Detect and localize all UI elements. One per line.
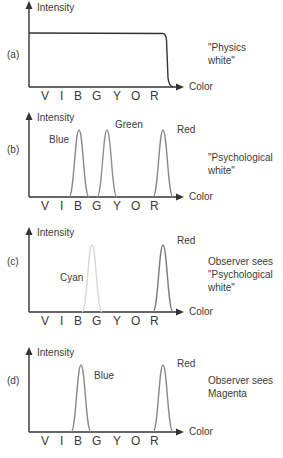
tick-r: R <box>150 314 159 328</box>
tick-g: G <box>92 199 101 213</box>
tick-r: R <box>150 89 159 103</box>
x-tick-labels: V I B G Y O R <box>41 434 159 448</box>
tick-g: G <box>92 434 101 448</box>
y-axis-label: Intensity <box>37 347 74 358</box>
blue-peak <box>71 365 91 432</box>
red-peak <box>153 245 173 312</box>
panel-b: Intensity Color (b) Blue Green Red "Psyc… <box>7 112 273 213</box>
x-axis-arrow-icon <box>176 309 184 316</box>
panel-caption-line-2: white" <box>207 165 235 176</box>
x-axis-arrow-icon <box>176 429 184 436</box>
tick-i: I <box>60 89 63 103</box>
panel-tag: (c) <box>7 256 19 267</box>
tick-y: Y <box>113 199 121 213</box>
panel-tag: (d) <box>7 375 19 386</box>
x-tick-labels: V I B G Y O R <box>41 314 159 328</box>
y-axis-label: Intensity <box>37 112 74 123</box>
x-axis-label: Color <box>189 191 214 202</box>
peak-label-red: Red <box>177 235 195 246</box>
panel-caption-line-1: "Physics <box>208 42 246 53</box>
panel-c: Intensity Color (c) Cyan Red Observer se… <box>7 227 273 328</box>
blue-peak <box>69 130 89 197</box>
peak-label-red: Red <box>177 358 195 369</box>
tick-o: O <box>131 314 140 328</box>
tick-b: B <box>74 434 82 448</box>
y-axis-label: Intensity <box>37 227 74 238</box>
panel-caption-line-1: "Psychological <box>208 152 273 163</box>
tick-i: I <box>60 314 63 328</box>
tick-v: V <box>41 89 49 103</box>
x-axis-arrow-icon <box>176 194 184 201</box>
tick-b: B <box>74 314 82 328</box>
tick-r: R <box>150 199 159 213</box>
peak-label-cyan: Cyan <box>60 272 83 283</box>
tick-y: Y <box>113 434 121 448</box>
tick-o: O <box>131 434 140 448</box>
panel-caption-line-3: white" <box>207 282 235 293</box>
cyan-peak <box>82 245 102 312</box>
green-peak <box>97 130 117 197</box>
x-axis-label: Color <box>189 426 214 437</box>
y-axis-arrow-icon <box>26 1 33 9</box>
x-axis-label: Color <box>189 81 214 92</box>
y-axis-label: Intensity <box>37 2 74 13</box>
x-axis-arrow-icon <box>176 84 184 91</box>
tick-g: G <box>92 314 101 328</box>
red-peak <box>153 130 173 197</box>
panel-caption-line-1: Observer sees <box>208 256 273 267</box>
panel-caption-line-2: white" <box>207 55 235 66</box>
tick-i: I <box>60 199 63 213</box>
panel-d: Intensity Color (d) Blue Red Observer se… <box>7 347 273 448</box>
peak-label-red: Red <box>177 124 195 135</box>
tick-y: Y <box>113 89 121 103</box>
y-axis-arrow-icon <box>26 227 33 235</box>
spectrum-diagram: Intensity Color (a) "Physics white" V I … <box>0 0 283 458</box>
tick-b: B <box>74 89 82 103</box>
panel-caption-line-1: Observer sees <box>208 375 273 386</box>
panel-caption-line-2: "Psychological <box>208 269 273 280</box>
panel-tag: (a) <box>7 49 19 60</box>
tick-v: V <box>41 314 49 328</box>
tick-o: O <box>131 89 140 103</box>
y-axis-arrow-icon <box>26 347 33 355</box>
tick-y: Y <box>113 314 121 328</box>
tick-v: V <box>41 199 49 213</box>
peak-label-blue: Blue <box>49 134 69 145</box>
tick-b: B <box>74 199 82 213</box>
panel-a: Intensity Color (a) "Physics white" V I … <box>7 1 246 103</box>
panel-caption-line-2: Magenta <box>208 388 247 399</box>
tick-i: I <box>60 434 63 448</box>
peak-label-blue: Blue <box>94 370 114 381</box>
panel-tag: (b) <box>7 144 19 155</box>
red-peak <box>153 365 173 432</box>
tick-r: R <box>150 434 159 448</box>
tick-v: V <box>41 434 49 448</box>
x-axis-label: Color <box>189 306 214 317</box>
x-tick-labels: V I B G Y O R <box>41 89 159 103</box>
tick-o: O <box>131 199 140 213</box>
tick-g: G <box>92 89 101 103</box>
peak-label-green: Green <box>115 119 143 130</box>
y-axis-arrow-icon <box>26 112 33 120</box>
physics-white-curve <box>29 33 173 87</box>
x-tick-labels: V I B G Y O R <box>41 199 159 213</box>
